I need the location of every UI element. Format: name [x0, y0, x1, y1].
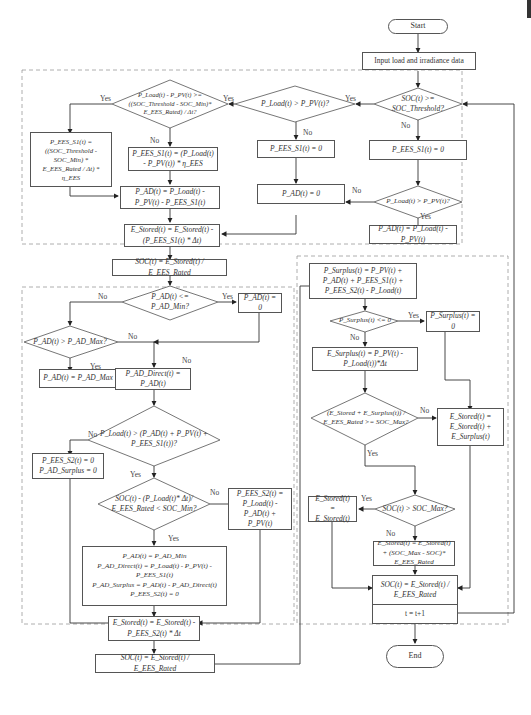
flowchart-canvas: Start Input load and irradiance data SOC…	[0, 0, 531, 715]
label-yes-load-minus-pv: Yes	[100, 94, 111, 103]
box-increment: t = t+1	[372, 604, 458, 624]
label-yes-pad-le-min: Yes	[222, 292, 233, 301]
box-soc-update-3: SOC(t) = E_Stored(t) / E_EES_Rated	[372, 575, 458, 605]
label-no-load-pv-a: No	[303, 128, 312, 137]
box-estored-cap: E_Stored(t) = E_Stored(t) + (SOC_Max - S…	[373, 541, 455, 566]
label-no-soc-min: No	[210, 488, 219, 497]
box-psurplus-zero: P_Surplus(t) = 0	[426, 311, 480, 332]
box-estored-same: E_Stored(t) = E_Stored(t)	[308, 496, 357, 522]
label-yes-load-gt-sum: Yes	[130, 470, 141, 479]
label-no-soc-threshold: No	[401, 121, 410, 130]
label-yes-load-pv-b: Yes	[420, 212, 431, 221]
label-yes-soc-threshold: Yes	[345, 94, 356, 103]
decision-pad-le-min: P_AD(t) <= P_AD_Min?	[132, 294, 208, 310]
decision-load-gt-sum: P_Load(t) > (P_AD(t) + P_PV(t) + P_EES_S…	[100, 424, 208, 454]
label-no-pad-gt-max: No	[128, 332, 137, 341]
box-soc-update-1: SOC(t) = E_Stored(t) / E_EES_Rated	[112, 259, 227, 276]
label-no-load-pv-b: No	[352, 186, 361, 195]
label-no-soc-max-check: No	[420, 406, 429, 415]
box-pad-zero-a: P_AD(t) = 0	[257, 184, 345, 204]
box-pees-s2-calc: P_EES_S2(t) = P_Load(t) - P_AD(t) + P_PV…	[228, 488, 292, 530]
start-terminal: Start	[388, 19, 448, 34]
label-yes-soc-min: Yes	[168, 534, 179, 543]
box-estored-add: E_Stored(t) = E_Stored(t) + E_Surplus(t)	[437, 408, 504, 446]
box-pad-zero: P_AD(t) = 0	[238, 293, 282, 313]
decision-load-minus-pv: P_Load(t) - P_PV(t) >= ((SOC_Threshold -…	[120, 84, 220, 124]
label-no-pad-le-min: No	[98, 292, 107, 301]
label-yes-psurplus: Yes	[408, 311, 419, 320]
box-pad-calc: P_AD(t) = P_Load(t) - P_PV(t) - P_EES_S1…	[120, 186, 220, 209]
box-pees-s2-zero: P_EES_S2(t) = 0 P_AD_Surplus = 0	[32, 453, 104, 479]
box-estored-s2: E_Stored(t) = E_Stored(t) - P_EES_S2(t) …	[108, 616, 200, 641]
decision-soc-threshold: SOC(t) >= SOC_Threshold?	[384, 92, 452, 116]
box-pad-max: P_AD(t) = P_AD_Max	[39, 369, 117, 388]
decision-load-gt-pv-a: P_Load(t) > P_PV(t)?	[248, 96, 342, 112]
label-no-merge: No	[182, 356, 191, 365]
decision-pad-gt-max: P_AD(t) > P_AD_Max?	[32, 334, 108, 350]
decision-load-gt-pv-b: P_Load(t) > P_PV(t)?	[382, 194, 454, 210]
box-pad-min-block: P_AD(t) = P_AD_Min P_AD_Direct(t) = P_Lo…	[82, 546, 227, 606]
label-no-soc-gt-max: No	[386, 529, 395, 538]
box-pees-s1-eta: P_EES_S1(t) = (P_Load(t) - P_PV(t)) * η_…	[128, 147, 218, 171]
label-yes-pad-gt-max: Yes	[90, 362, 101, 371]
box-pees-s1-threshold: P_EES_S1(t) = ((SOC_Threshold - SOC_Min)…	[30, 132, 112, 187]
input-data-box: Input load and irradiance data	[362, 52, 476, 70]
box-pees-s1-zero-b: P_EES_S1(t) = 0	[369, 140, 467, 160]
label-yes-soc-gt-max: Yes	[361, 494, 372, 503]
decision-soc-max-check: (E_Stored + E_Surplus(t)) / E_EES_Rated …	[322, 404, 410, 432]
label-yes-load-pv-a: Yes	[223, 94, 234, 103]
box-soc-update-2: SOC(t) = E_Stored(t) / E_EES_Rated	[95, 654, 215, 673]
box-psurplus-calc: P_Surplus(t) = P_PV(t) + P_AD(t) + P_EES…	[309, 263, 417, 299]
page-edge-mark	[527, 0, 531, 18]
end-terminal: End	[386, 645, 444, 668]
box-pees-s1-zero-a: P_EES_S1(t) = 0	[257, 140, 335, 158]
box-pad-load-pv: P_AD(t) = P_Load(t) - P_PV(t)	[369, 225, 457, 244]
label-no-load-gt-sum: No	[88, 430, 97, 439]
label-no-psurplus: No	[350, 333, 359, 342]
box-pad-direct: P_AD_Direct(t) = P_AD(t)	[115, 368, 191, 390]
label-no-load-minus-pv: No	[150, 136, 159, 145]
decision-soc-gt-max: SOC(t) > SOC_Max?	[380, 501, 450, 517]
box-esurplus: E_Surplus(t) = P_PV(t) - P_Load(t))*Δt	[312, 347, 418, 371]
decision-soc-min: SOC(t) - (P_Load(t)* Δt)/ E_EES_Rated < …	[108, 490, 200, 518]
label-yes-soc-max-check: Yes	[367, 449, 378, 458]
decision-psurplus-le-zero: P_Surplus(t) <= 0	[336, 314, 394, 328]
box-estored-s1: E_Stored(t) = E_Stored(t) - (P_EES_S1(t)…	[124, 224, 220, 247]
